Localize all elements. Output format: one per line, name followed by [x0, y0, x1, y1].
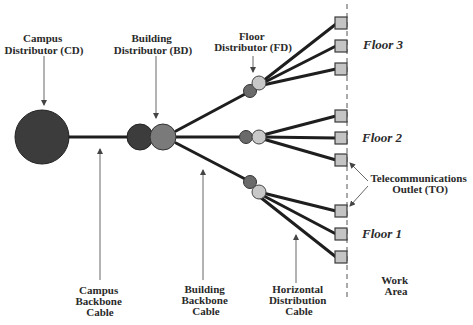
to-pointer-arrow-upper [350, 163, 368, 181]
telecom-outlet [335, 110, 347, 122]
campus-distributor-node [15, 110, 69, 164]
campus-backbone-label: Campus Backbone Cable [75, 284, 124, 318]
work-area-label: Work Area [381, 274, 411, 297]
bd-label: Building Distributor (BD) [114, 32, 193, 57]
telecom-outlet [335, 17, 347, 29]
fd-label: Floor Distributor (FD) [214, 30, 292, 54]
to-label: Telecommunications Outlet (TO) [371, 172, 470, 196]
floor-distributor-floor2 [240, 130, 267, 144]
building-backbone-cable-floor3 [176, 93, 247, 131]
outlets-floor2 [335, 110, 347, 166]
to-pointer-arrow-lower [350, 186, 368, 206]
horizontal-cable-label: Horizontal Distribution Cable [269, 283, 329, 317]
telecom-outlet [335, 251, 347, 263]
telecom-outlet [335, 63, 347, 75]
horizontal-cables-floor3 [263, 24, 336, 85]
cd-label: Campus Distributor (CD) [5, 32, 84, 57]
telecom-outlet [335, 205, 347, 217]
floor-distributor-floor1 [244, 176, 267, 200]
telecom-outlet [335, 228, 347, 240]
horizontal-cables-floor2 [263, 116, 336, 160]
floor3-label: Floor 3 [362, 37, 404, 52]
cabling-hierarchy-diagram: Campus Distributor (CD) Building Distrib… [0, 0, 473, 325]
telecom-outlet [335, 132, 347, 144]
building-backbone-label: Building Backbone Cable [181, 283, 230, 317]
floor2-label: Floor 2 [361, 130, 403, 145]
telecom-outlet [335, 40, 347, 52]
outlets-floor1 [335, 205, 347, 263]
outlets-floor3 [335, 17, 347, 75]
floor1-label: Floor 1 [361, 226, 402, 241]
telecom-outlet [335, 154, 347, 166]
building-backbone-cable-floor1 [176, 143, 247, 180]
horizontal-cables-floor1 [260, 193, 336, 257]
floor-distributor-floor3 [244, 76, 267, 98]
building-distributor-node [127, 124, 176, 150]
